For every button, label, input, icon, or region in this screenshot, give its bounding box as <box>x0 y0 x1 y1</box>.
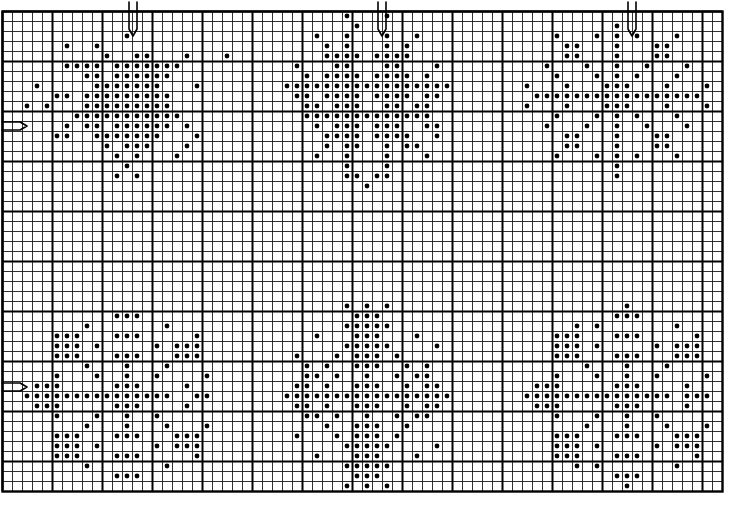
pattern-grid-canvas <box>0 0 736 511</box>
cross-stitch-chart <box>0 0 736 511</box>
